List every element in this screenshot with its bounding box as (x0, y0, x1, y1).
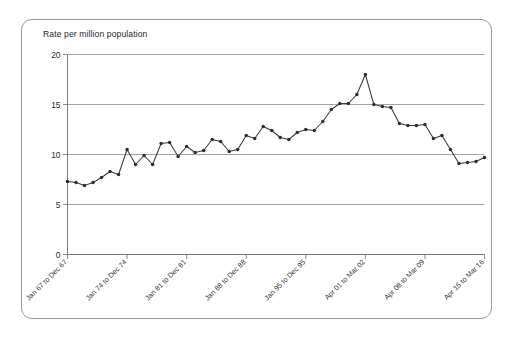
data-point-marker (236, 148, 240, 152)
data-point-marker (355, 93, 359, 97)
data-point-marker (227, 150, 231, 154)
data-point-marker (389, 106, 393, 110)
data-point-marker (347, 102, 351, 106)
data-point-marker (406, 124, 410, 128)
y-tick-label: 5 (56, 200, 61, 210)
x-tick-label: Jan 74 to Dec 74 (84, 258, 129, 303)
data-point-marker (364, 73, 368, 77)
data-point-marker (372, 103, 376, 107)
data-point-marker (134, 163, 138, 167)
data-point-marker (466, 161, 470, 165)
chart-figure: Rate per million population 05101520Jan … (0, 0, 510, 337)
y-tick-label: 20 (51, 50, 61, 60)
x-tick-label: Jan 95 to Dec 95 (262, 258, 307, 303)
data-point-marker (423, 123, 427, 127)
data-point-marker (74, 181, 78, 185)
y-tick-label: 0 (56, 250, 61, 260)
chart-card: Rate per million population 05101520Jan … (21, 19, 492, 319)
data-point-marker (83, 184, 87, 188)
x-tick-label: Apr 15 to Mar 16 (442, 258, 486, 302)
x-tick-label: Apr 01 to Mar 02 (323, 258, 367, 302)
data-point-marker (296, 131, 300, 135)
data-point-marker (279, 136, 283, 140)
y-tick-label: 15 (51, 100, 61, 110)
data-point-marker (261, 125, 265, 129)
data-point-marker (449, 148, 453, 152)
line-chart-plot: 05101520Jan 67 to Dec 67Jan 74 to Dec 74… (22, 20, 493, 320)
data-point-marker (457, 162, 461, 166)
data-point-marker (219, 140, 223, 144)
data-point-marker (202, 149, 206, 153)
x-tick-label: Jan 81 to Dec 81 (143, 258, 188, 303)
data-point-marker (304, 128, 308, 132)
x-tick-label: Jan 67 to Dec 67 (24, 258, 69, 303)
data-point-marker (415, 124, 419, 128)
data-point-marker (176, 155, 180, 159)
data-point-marker (398, 122, 402, 126)
data-point-marker (440, 134, 444, 138)
data-point-marker (100, 176, 104, 180)
x-tick-label: Apr 08 to Mar 09 (382, 258, 426, 302)
data-point-marker (168, 141, 172, 145)
data-point-marker (151, 163, 155, 167)
data-point-marker (159, 142, 163, 146)
data-point-marker (253, 137, 257, 141)
data-point-marker (330, 108, 334, 112)
data-point-marker (185, 145, 189, 149)
data-point-marker (474, 160, 478, 164)
y-tick-label: 10 (51, 150, 61, 160)
data-point-marker (66, 180, 70, 184)
data-point-marker (193, 151, 197, 155)
data-point-marker (313, 129, 317, 133)
data-point-marker (142, 154, 146, 158)
data-point-marker (244, 134, 248, 138)
data-point-marker (483, 156, 487, 160)
data-point-marker (381, 105, 385, 109)
series-line (68, 75, 485, 186)
data-point-marker (270, 129, 274, 133)
x-tick-label: Jan 88 to Dec 88 (203, 258, 248, 303)
data-point-marker (432, 137, 436, 141)
data-point-marker (91, 181, 95, 185)
data-point-marker (117, 173, 121, 177)
data-point-marker (338, 102, 342, 106)
data-point-marker (125, 148, 129, 152)
data-point-marker (287, 138, 291, 142)
data-point-marker (210, 138, 214, 142)
data-point-marker (108, 170, 112, 174)
data-point-marker (321, 120, 325, 124)
